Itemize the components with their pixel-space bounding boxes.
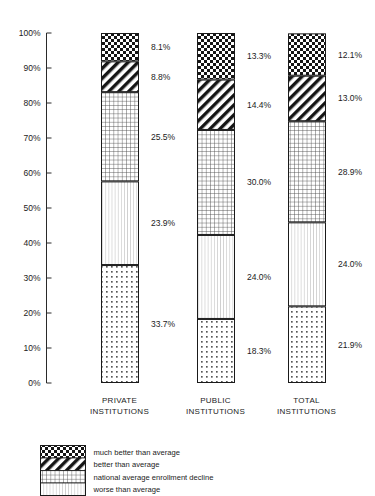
bar-segment [289, 223, 326, 306]
bar-segment [198, 235, 235, 318]
category-axis-label: INSTITUTIONS [90, 407, 149, 416]
bar-segment [289, 122, 326, 222]
y-axis-tick-label: 40% [23, 238, 40, 248]
legend-swatches [41, 446, 86, 496]
legend: much better than averagebetter than aver… [41, 446, 214, 496]
y-axis: 100%90%80%70%60%50%40%30%20%10%0% [19, 28, 52, 388]
legend-swatch [41, 458, 86, 471]
legend-entry-label: better than average [94, 460, 160, 469]
y-axis-tick-label: 100% [19, 28, 41, 38]
legend-swatch [41, 446, 86, 459]
segment-value-label: 23.9% [151, 218, 176, 228]
segment-value-label: 21.9% [338, 340, 363, 350]
segment-value-label: 28.9% [338, 167, 363, 177]
segment-value-label: 14.4% [247, 100, 272, 110]
segment-value-label: 24.0% [338, 259, 363, 269]
bar-segment [198, 80, 235, 129]
legend-entry-label: much better than average [94, 448, 181, 457]
stacked-bar-chart: 100%90%80%70%60%50%40%30%20%10%0% 33.7%2… [0, 0, 375, 496]
y-axis-tick-label: 0% [28, 378, 41, 388]
bar-segment [198, 34, 235, 80]
y-axis-tick-label: 10% [23, 343, 40, 353]
segment-value-label: 8.1% [151, 42, 171, 52]
bars-group [102, 34, 326, 383]
segment-value-label: 8.8% [151, 72, 171, 82]
legend-labels: much better than averagebetter than aver… [93, 448, 214, 495]
segment-value-label: 12.1% [338, 50, 363, 60]
bar-segment [102, 34, 139, 61]
value-labels-group: 33.7%23.9%25.5%8.8%8.1%18.3%24.0%30.0%14… [151, 42, 363, 356]
y-axis-tick-label: 70% [23, 133, 40, 143]
y-axis-tick-label: 30% [23, 273, 40, 283]
y-axis-tick-label: 60% [23, 168, 40, 178]
y-axis-ticks [47, 33, 52, 383]
legend-swatch [41, 471, 86, 484]
legend-entry-label: worse than average [93, 485, 161, 494]
segment-value-label: 33.7% [151, 319, 176, 329]
legend-entry-label: national average enrollment decline [94, 473, 214, 482]
y-axis-tick-label: 20% [23, 308, 40, 318]
segment-value-label: 24.0% [247, 272, 272, 282]
segment-value-label: 18.3% [247, 346, 272, 356]
bar-segment [289, 34, 326, 75]
bar-segment [102, 62, 139, 92]
category-axis-label: INSTITUTIONS [277, 407, 336, 416]
bar-segment [289, 307, 326, 383]
category-labels-group: PRIVATEINSTITUTIONSPUBLICINSTITUTIONSTOT… [90, 396, 336, 416]
bar-segment [102, 266, 139, 383]
segment-value-label: 13.0% [338, 93, 363, 103]
segment-value-label: 30.0% [247, 177, 272, 187]
bar-segment [102, 93, 139, 181]
y-axis-tick-labels: 100%90%80%70%60%50%40%30%20%10%0% [19, 28, 41, 388]
bar-segment [198, 319, 235, 382]
y-axis-tick-label: 80% [23, 98, 40, 108]
category-axis-label: PRIVATE [102, 396, 137, 405]
category-axis-label: TOTAL [293, 396, 320, 405]
bar-segment [198, 130, 235, 234]
y-axis-tick-label: 90% [23, 63, 40, 73]
chart-container: 100%90%80%70%60%50%40%30%20%10%0% 33.7%2… [0, 0, 375, 496]
category-axis-label: PUBLIC [200, 396, 231, 405]
legend-swatch [41, 483, 86, 496]
bar-segment [289, 76, 326, 121]
segment-value-label: 25.5% [151, 132, 176, 142]
segment-value-label: 13.3% [247, 51, 272, 61]
bar-segment [102, 182, 139, 265]
y-axis-tick-label: 50% [23, 203, 40, 213]
category-axis-label: INSTITUTIONS [186, 407, 245, 416]
